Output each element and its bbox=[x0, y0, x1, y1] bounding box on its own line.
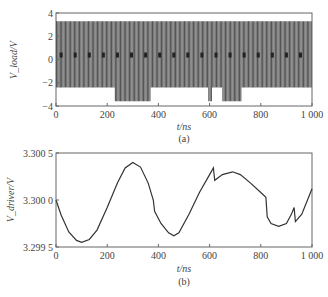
caption-b: (b) bbox=[178, 276, 190, 288]
y-tick-label: −2 bbox=[42, 77, 53, 88]
x-axis-label-b: t/ns bbox=[177, 263, 192, 274]
x-tick-label: 1 000 bbox=[301, 250, 324, 261]
x-tick-label: 800 bbox=[253, 250, 268, 261]
y-axis-label-b: V_driver/V bbox=[5, 176, 16, 222]
caption-a: (a) bbox=[178, 133, 189, 145]
x-tick-label: 400 bbox=[151, 250, 166, 261]
x-axis-label-a: t/ns bbox=[177, 121, 192, 132]
y-tick-label: −4 bbox=[42, 101, 53, 112]
x-tick-label: 800 bbox=[253, 109, 268, 120]
v-driver-waveform bbox=[56, 162, 312, 242]
y-axis-label-a: V_load/V bbox=[8, 39, 19, 79]
x-tick-label: 0 bbox=[54, 250, 59, 261]
x-tick-label: 600 bbox=[202, 109, 217, 120]
x-tick-label: 1 000 bbox=[301, 109, 324, 120]
y-tick-label: 0 bbox=[48, 54, 53, 65]
y-tick-label: 4 bbox=[48, 8, 53, 19]
x-tick-label: 400 bbox=[151, 109, 166, 120]
x-tick-label: 0 bbox=[54, 109, 59, 120]
chart-panel-b: 02004006008001 0003.300 53.300 03.299 5 … bbox=[5, 148, 323, 289]
x-tick-label: 200 bbox=[100, 250, 115, 261]
chart-figure: 02004006008001 000420−2−4 V_load/V t/ns … bbox=[0, 0, 328, 297]
y-tick-label: 2 bbox=[48, 31, 53, 42]
axis-ticks-b: 02004006008001 0003.300 53.300 03.299 5 bbox=[23, 148, 323, 262]
v-load-waveform bbox=[57, 21, 312, 101]
y-tick-label: 3.300 5 bbox=[23, 148, 53, 159]
x-tick-label: 200 bbox=[100, 109, 115, 120]
chart-panel-a: 02004006008001 000420−2−4 V_load/V t/ns … bbox=[8, 8, 323, 146]
y-tick-label: 3.299 5 bbox=[23, 242, 53, 253]
x-tick-label: 600 bbox=[202, 250, 217, 261]
y-tick-label: 3.300 0 bbox=[23, 195, 53, 206]
